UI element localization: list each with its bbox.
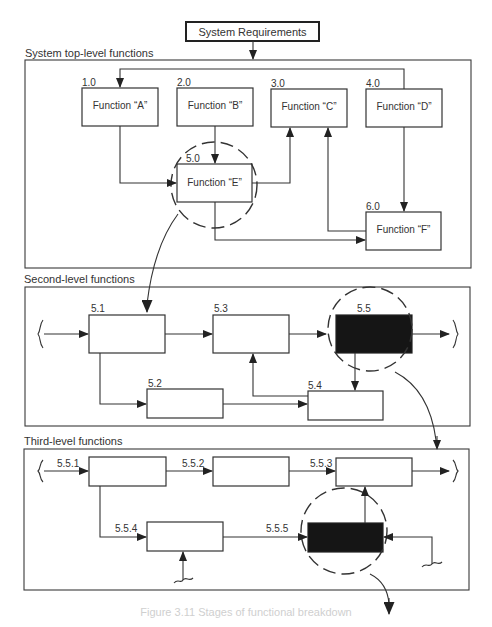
function-id-e: 5.0	[186, 153, 200, 164]
function-label-e: Function “E”	[187, 177, 241, 188]
output-brace-icon	[453, 320, 458, 348]
drilldown-curve-5-5	[395, 372, 436, 440]
function-id-d: 4.0	[366, 78, 380, 89]
section-label-top: System top-level functions	[25, 47, 154, 59]
function-id-5-5-4: 5.5.4	[115, 523, 138, 534]
feedback-connector-d-to-a	[120, 69, 404, 89]
connector-f-to-c	[328, 128, 366, 231]
function-id-5-5-1: 5.5.1	[57, 458, 80, 469]
function-id-c: 3.0	[271, 78, 285, 89]
function-id-5-5-3: 5.5.3	[310, 458, 333, 469]
function-label-f: Function “F”	[377, 224, 431, 235]
function-node-5-3: 5.3	[213, 303, 289, 353]
system-requirements-node: System Requirements	[186, 22, 319, 41]
connector-5-1-to-5-2	[100, 353, 146, 404]
drilldown-curve-5-5-5	[370, 574, 389, 604]
function-id-a: 1.0	[82, 77, 96, 88]
function-node-5-5-3: 5.5.3	[310, 458, 412, 486]
function-node-b: 2.0 Function “B”	[177, 77, 253, 126]
function-id-5-3: 5.3	[214, 303, 228, 314]
function-id-f: 6.0	[366, 201, 380, 212]
function-id-b: 2.0	[177, 77, 191, 88]
function-label-a: Function “A”	[93, 100, 147, 111]
function-label-d: Function “D”	[376, 101, 431, 112]
function-id-5-5-5: 5.5.5	[266, 523, 289, 534]
external-input-5-5-5	[384, 537, 432, 564]
function-id-5-5-2: 5.5.2	[182, 458, 205, 469]
function-id-5-4: 5.4	[308, 380, 322, 391]
function-node-5-2: 5.2	[147, 378, 223, 418]
function-id-5-1: 5.1	[91, 303, 105, 314]
function-id-5-5: 5.5	[357, 303, 371, 314]
figure-caption: Figure 3.11 Stages of functional breakdo…	[0, 606, 492, 618]
function-label-b: Function “B”	[188, 100, 242, 111]
function-node-5-5: 5.5	[336, 303, 412, 353]
function-node-c: 3.0 Function “C”	[271, 78, 347, 127]
drilldown-curve-e	[147, 214, 178, 304]
function-id-5-2: 5.2	[148, 378, 162, 389]
function-node-5-4: 5.4	[308, 380, 383, 420]
section-label-third: Third-level functions	[24, 435, 123, 447]
connector-e-to-c	[252, 128, 290, 183]
connector-a-to-e	[120, 126, 176, 183]
connector-5-4-to-5-3	[253, 354, 308, 396]
input-brace-icon-third	[38, 460, 43, 482]
functional-decomposition-diagram: System Requirements System top-level fun…	[0, 0, 492, 627]
system-requirements-label: System Requirements	[198, 26, 307, 38]
function-node-5-1: 5.1	[89, 303, 165, 353]
function-label-c: Function “C”	[281, 101, 336, 112]
section-label-second: Second-level functions	[24, 273, 135, 285]
output-brace-icon-third	[453, 460, 458, 482]
input-brace-icon	[38, 320, 43, 348]
